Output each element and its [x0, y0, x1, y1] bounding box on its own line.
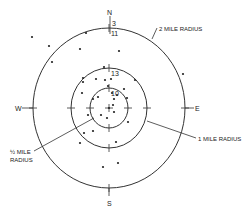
radius-diagram: N S E W 3 11 13 10 2 MILE RADIUS 1 MILE … — [0, 0, 248, 215]
data-point — [104, 79, 106, 81]
one-mile-radius-label: 1 MILE RADIUS — [198, 136, 241, 142]
data-point — [106, 117, 108, 119]
two-mile-radius-label: 2 MILE RADIUS — [159, 26, 202, 32]
data-point — [123, 88, 125, 90]
data-point — [113, 111, 115, 113]
data-point — [85, 32, 87, 34]
data-point — [92, 130, 94, 132]
data-point — [51, 61, 53, 63]
half-mile-label: ½ MILE — [10, 149, 31, 155]
data-point — [108, 107, 110, 109]
count-one-mile-ring: 13 — [111, 70, 119, 77]
data-point — [126, 97, 128, 99]
data-point — [31, 36, 33, 38]
data-point — [102, 166, 104, 168]
data-point — [79, 48, 81, 50]
east-label: E — [195, 105, 200, 112]
data-point — [81, 92, 83, 94]
count-two-mile-ring: 11 — [111, 30, 118, 37]
data-point — [127, 121, 129, 123]
data-point — [117, 162, 119, 164]
data-point — [103, 66, 105, 68]
data-point — [100, 114, 102, 116]
data-point — [107, 85, 109, 87]
data-point — [110, 78, 112, 80]
data-point — [87, 114, 89, 116]
diagram-canvas: N S E W 3 11 13 10 2 MILE RADIUS 1 MILE … — [0, 0, 248, 215]
axis-ticks — [22, 24, 194, 196]
data-point — [97, 96, 99, 98]
south-label: S — [107, 200, 112, 207]
count-half-mile: 10 — [111, 90, 119, 97]
count-outside-two-mile: 3 — [112, 20, 116, 27]
data-point — [48, 45, 50, 47]
west-label: W — [15, 105, 22, 112]
data-point — [82, 77, 84, 79]
data-point — [95, 78, 97, 80]
data-point — [134, 79, 136, 81]
data-point — [115, 141, 117, 143]
north-label: N — [107, 9, 112, 16]
data-point — [83, 132, 85, 134]
half-mile-radius-label: RADIUS — [10, 157, 33, 163]
data-point — [113, 98, 115, 100]
data-point — [112, 104, 114, 106]
data-point — [92, 98, 94, 100]
data-point — [182, 73, 184, 75]
data-point — [82, 81, 84, 83]
data-point — [79, 142, 81, 144]
data-point — [118, 50, 120, 52]
